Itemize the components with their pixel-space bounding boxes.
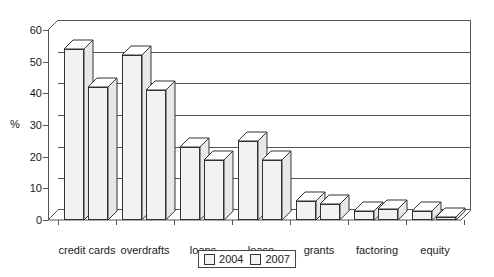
bar-loans-2004 [180, 20, 200, 220]
x-tick-4 [290, 220, 291, 225]
x-tick-6 [406, 220, 407, 225]
chart-left-depth-wall [48, 20, 59, 221]
legend-swatch-icon-2004 [204, 254, 215, 265]
y-tick-0 [43, 220, 48, 221]
y-tick-50 [43, 62, 48, 63]
chart-legend: 2004 2007 [198, 250, 296, 268]
y-tick-label-0: 0 [36, 214, 42, 226]
bar-overdrafts-2007 [146, 20, 166, 220]
x-label-credit-cards: credit cards [59, 244, 116, 256]
y-tick-20 [43, 157, 48, 158]
chart-container: 60 50 40 30 20 10 0 % [0, 0, 494, 277]
y-tick-label-20: 20 [30, 151, 42, 163]
legend-item-2007: 2007 [251, 252, 290, 266]
x-tick-5 [348, 220, 349, 225]
bar-equity-2007 [436, 20, 456, 220]
y-axis-title: % [10, 118, 20, 130]
bar-grants-2004 [296, 20, 316, 220]
y-tick-label-30: 30 [30, 119, 42, 131]
y-tick-label-40: 40 [30, 87, 42, 99]
x-label-overdrafts: overdrafts [121, 244, 170, 256]
y-tick-label-10: 10 [30, 182, 42, 194]
bar-credit-cards-2007 [88, 20, 108, 220]
x-label-factoring: factoring [356, 244, 398, 256]
bar-factoring-2004 [354, 20, 374, 220]
x-label-grants: grants [304, 244, 335, 256]
y-tick-60 [43, 30, 48, 31]
bar-lease-2004 [238, 20, 258, 220]
bar-credit-cards-2004 [64, 20, 84, 220]
legend-label-2004: 2004 [219, 252, 243, 266]
bar-lease-2007 [262, 20, 282, 220]
y-tick-label-50: 50 [30, 56, 42, 68]
bar-overdrafts-2004 [122, 20, 142, 220]
bar-grants-2007 [320, 20, 340, 220]
x-label-equity: equity [420, 244, 449, 256]
x-tick-1 [116, 220, 117, 225]
plot-area: 60 50 40 30 20 10 0 % [48, 20, 471, 220]
x-tick-3 [232, 220, 233, 225]
bar-factoring-2007 [378, 20, 398, 220]
y-tick-40 [43, 93, 48, 94]
legend-item-2004: 2004 [204, 252, 243, 266]
bar-loans-2007 [204, 20, 224, 220]
bar-equity-2004 [412, 20, 432, 220]
x-tick-7 [464, 220, 465, 225]
x-tick-2 [174, 220, 175, 225]
y-tick-30 [43, 125, 48, 126]
x-tick-0 [58, 220, 59, 225]
y-tick-10 [43, 188, 48, 189]
y-tick-label-60: 60 [30, 24, 42, 36]
legend-label-2007: 2007 [266, 252, 290, 266]
legend-swatch-icon-2007 [251, 254, 262, 265]
y-axis-line [48, 30, 49, 220]
